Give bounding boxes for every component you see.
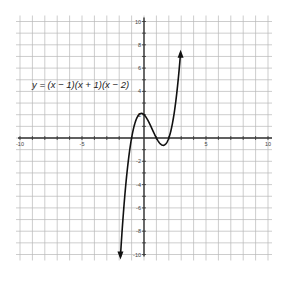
cubic-curve <box>120 53 180 257</box>
function-graph: -10-5510-10-8-6-4-2246810 y = (x − 1)(x … <box>0 0 289 281</box>
equation-label: y = (x − 1)(x + 1)(x − 2) <box>31 79 129 90</box>
y-tick-label: -10 <box>133 252 141 258</box>
arrow-up-icon <box>178 50 184 58</box>
x-tick-label: 10 <box>265 141 271 147</box>
y-tick-label: 6 <box>138 65 141 71</box>
y-tick-label: -2 <box>136 158 141 164</box>
y-tick-label: -8 <box>136 228 141 234</box>
x-tick-label: 5 <box>204 141 207 147</box>
arrow-down-icon <box>117 252 123 260</box>
y-tick-label: -6 <box>136 205 141 211</box>
y-tick-label: -4 <box>136 182 141 188</box>
y-tick-label: 8 <box>138 42 141 48</box>
y-tick-label: 4 <box>138 88 141 94</box>
axes <box>18 18 272 257</box>
x-tick-label: -10 <box>16 141 24 147</box>
y-tick-label: 10 <box>135 19 141 25</box>
x-tick-label: -5 <box>80 141 85 147</box>
